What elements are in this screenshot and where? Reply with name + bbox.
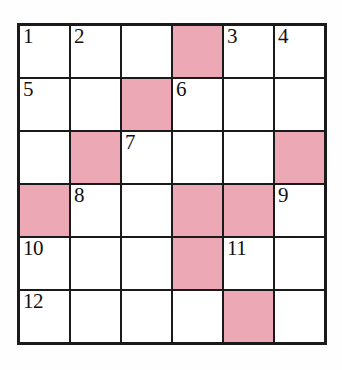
grid-cell-open[interactable] (275, 238, 324, 289)
grid-cell-open[interactable]: 7 (122, 132, 171, 183)
grid-cell-open[interactable] (275, 291, 324, 342)
grid-cell-open[interactable]: 4 (275, 26, 324, 77)
cell-number-label: 5 (23, 79, 33, 101)
cell-number-label: 10 (23, 238, 43, 260)
cell-number-label: 9 (278, 185, 288, 207)
cell-number-label: 11 (227, 238, 246, 260)
grid-cell-open[interactable] (224, 132, 273, 183)
grid-cell-open[interactable] (173, 132, 222, 183)
grid-cell-open[interactable]: 1 (20, 26, 69, 77)
cell-number-label: 1 (23, 26, 33, 48)
crossword-grid: 123456789101112 (17, 23, 327, 345)
grid-cell-open[interactable]: 6 (173, 79, 222, 130)
grid-cell-open[interactable] (122, 291, 171, 342)
grid-cell-open[interactable] (20, 132, 69, 183)
grid-cell-open[interactable] (122, 238, 171, 289)
grid-cell-blocked (275, 132, 324, 183)
grid-cell-blocked (224, 291, 273, 342)
grid-cell-open[interactable] (275, 79, 324, 130)
cell-number-label: 7 (125, 132, 135, 154)
grid-cell-blocked (224, 185, 273, 236)
grid-cell-open[interactable]: 5 (20, 79, 69, 130)
grid-cell-open[interactable]: 2 (71, 26, 120, 77)
grid-cell-blocked (173, 185, 222, 236)
grid-cell-open[interactable] (122, 185, 171, 236)
grid-cell-open[interactable] (122, 26, 171, 77)
grid-cell-blocked (173, 26, 222, 77)
grid-cell-open[interactable]: 9 (275, 185, 324, 236)
grid-cell-open[interactable]: 12 (20, 291, 69, 342)
cell-number-label: 4 (278, 26, 288, 48)
grid-cell-open[interactable] (71, 79, 120, 130)
cell-number-label: 8 (74, 185, 84, 207)
cell-number-label: 2 (74, 26, 84, 48)
grid-cell-open[interactable] (173, 291, 222, 342)
grid-cell-open[interactable]: 10 (20, 238, 69, 289)
cell-number-label: 6 (176, 79, 186, 101)
crossword-puzzle-root: 123456789101112 (0, 0, 342, 370)
grid-cell-open[interactable] (71, 238, 120, 289)
grid-cell-open[interactable] (224, 79, 273, 130)
cell-number-label: 12 (23, 291, 43, 313)
grid-cell-open[interactable]: 11 (224, 238, 273, 289)
grid-cell-blocked (122, 79, 171, 130)
grid-cell-open[interactable]: 3 (224, 26, 273, 77)
grid-cell-blocked (20, 185, 69, 236)
grid-cell-blocked (173, 238, 222, 289)
grid-cell-open[interactable]: 8 (71, 185, 120, 236)
grid-cell-open[interactable] (71, 291, 120, 342)
cell-number-label: 3 (227, 26, 237, 48)
grid-cell-blocked (71, 132, 120, 183)
